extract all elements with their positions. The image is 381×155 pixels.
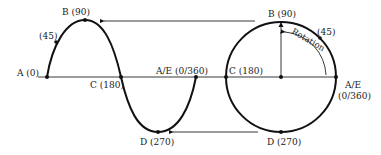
label-circle-ae-degrees: (0/360) — [338, 91, 371, 101]
sine-point-a — [45, 75, 49, 79]
label-sine-45: (45) — [39, 31, 57, 41]
label-circle-45: (45) — [317, 27, 335, 37]
sine-point-d — [156, 130, 160, 134]
circle-point-c — [224, 75, 228, 79]
label-circle-c: C (180) — [229, 66, 263, 76]
sine-point-b — [83, 18, 87, 22]
label-sine-ae: A/E (0/360) — [155, 66, 208, 76]
sine-wave-diagram: A (0) (45) B (90) C (180) D (270) A/E (0… — [0, 0, 381, 155]
circle-center — [279, 75, 283, 79]
circle-point-ae — [334, 75, 338, 79]
sine-point-c — [119, 75, 123, 79]
label-circle-b: B (90) — [268, 9, 296, 19]
circle-point-d — [279, 130, 283, 134]
label-circle-ae: A/E — [344, 80, 361, 90]
label-circle-d: D (270) — [267, 137, 301, 147]
label-sine-d: D (270) — [140, 137, 174, 147]
label-sine-c: C (180) — [90, 80, 124, 90]
label-sine-b: B (90) — [62, 7, 90, 17]
label-sine-a: A (0) — [16, 68, 39, 78]
